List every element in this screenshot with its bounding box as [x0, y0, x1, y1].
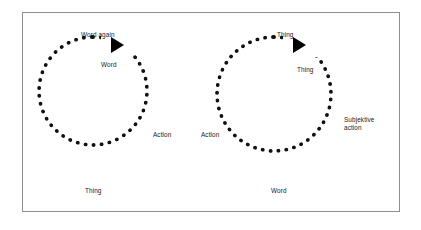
left-label-thing: Thing [85, 187, 102, 195]
right-label-word: Word [271, 187, 287, 195]
right-label-action: Action [201, 131, 219, 139]
right-cycle-arrowhead [293, 37, 306, 53]
left-label-word-again: Word again [81, 31, 115, 39]
left-cycle-arrowhead [111, 37, 124, 53]
left-label-word: Word [101, 61, 117, 69]
right-label-thing-top: Thing [277, 31, 294, 39]
right-label-thing-inner: Thing [297, 66, 314, 74]
figure-frame: Word again Word Action Thing Thing Thing… [22, 12, 400, 212]
right-cycle-group: Thing Thing Subjektive action Action Wor… [215, 35, 395, 180]
left-cycle-group: Word again Word Action Thing [37, 35, 187, 175]
right-label-subjektive-action: Subjektive action [344, 116, 375, 132]
left-label-action: Action [153, 131, 171, 139]
